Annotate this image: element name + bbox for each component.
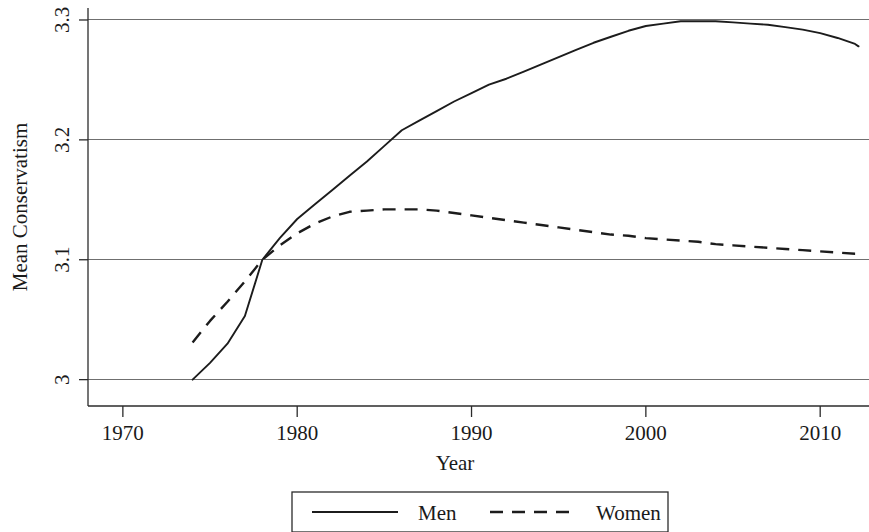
legend: Men Women — [292, 492, 668, 532]
chart-figure: 19701980199020002010 33.13.23.3 Year Mea… — [0, 0, 869, 532]
x-axis-title: Year — [436, 451, 475, 475]
x-tick-label-0: 1970 — [102, 421, 144, 445]
y-tick-label-1: 3.1 — [50, 247, 74, 273]
y-tick-label-0: 3 — [50, 374, 74, 385]
line-chart: 19701980199020002010 33.13.23.3 Year Mea… — [0, 0, 869, 532]
y-tick-label-2: 3.2 — [50, 127, 74, 153]
y-tick-label-3: 3.3 — [50, 7, 74, 33]
x-tick-label-2: 1990 — [451, 421, 493, 445]
legend-label-women: Women — [596, 501, 661, 525]
y-axis-title: Mean Conservatism — [8, 123, 32, 292]
x-tick-label-3: 2000 — [625, 421, 667, 445]
legend-label-men: Men — [418, 501, 457, 525]
x-tick-label-1: 1980 — [276, 421, 318, 445]
chart-background — [0, 0, 869, 532]
x-tick-label-4: 2010 — [799, 421, 841, 445]
